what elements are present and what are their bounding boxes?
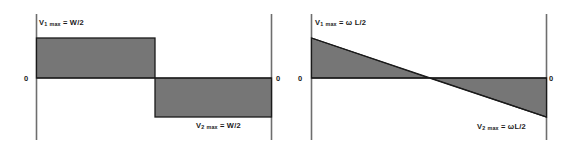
v1-qualifier: max bbox=[50, 21, 61, 27]
v1-qualifier: max bbox=[326, 21, 337, 27]
v1-value: = W/2 bbox=[61, 18, 84, 27]
negative-shear-block bbox=[155, 78, 272, 117]
shear-max-v1-label: V1 max = W/2 bbox=[39, 19, 84, 27]
shear-max-v1-label: V1 max = ω L/2 bbox=[315, 19, 366, 27]
positive-shear-block bbox=[37, 38, 156, 78]
v2-index: 2 bbox=[482, 125, 485, 131]
shear-max-v2-label: V2 max = ωL/2 bbox=[477, 123, 526, 131]
v2-qualifier: max bbox=[207, 124, 218, 130]
shear-force-diagram-panel: V1 max = W/2 V2 max = W/2 0 0 bbox=[0, 0, 293, 154]
v1-value: = ω L/2 bbox=[337, 18, 366, 27]
shear-max-v2-label: V2 max = W/2 bbox=[196, 122, 241, 130]
v2-value: = ωL/2 bbox=[499, 122, 526, 131]
v2-qualifier: max bbox=[488, 125, 499, 131]
zero-label-right: 0 bbox=[549, 75, 553, 83]
shear-diagrams-figure: V1 max = W/2 V2 max = W/2 0 0 V1 max = ω… bbox=[0, 0, 585, 154]
v2-value: = W/2 bbox=[218, 121, 241, 130]
zero-label-right: 0 bbox=[276, 75, 280, 83]
v2-index: 2 bbox=[201, 124, 204, 130]
zero-label-left: 0 bbox=[298, 75, 302, 83]
linear-shear-diagram-panel: V1 max = ω L/2 V2 max = ωL/2 0 0 bbox=[293, 0, 585, 154]
v1-index: 1 bbox=[44, 21, 47, 27]
zero-label-left: 0 bbox=[24, 75, 28, 83]
v1-index: 1 bbox=[320, 21, 323, 27]
